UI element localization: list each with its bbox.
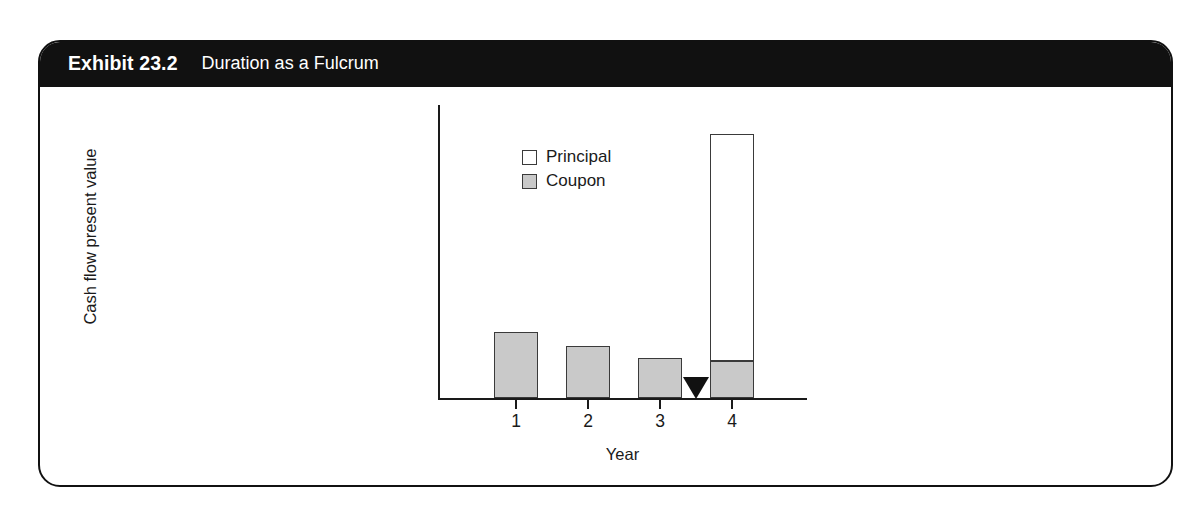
x-axis-tick <box>515 400 517 409</box>
x-axis-tick-label: 4 <box>712 411 752 432</box>
legend-swatch-principal-icon <box>522 150 537 165</box>
legend-label-principal: Principal <box>546 147 611 167</box>
bar-segment-coupon <box>638 358 682 398</box>
bar-segment-coupon <box>566 346 610 398</box>
chart-plot-area: Cash flow present value Year 1234 Princi… <box>40 87 1173 487</box>
x-axis-tick <box>731 400 733 409</box>
x-axis-tick-label: 1 <box>496 411 536 432</box>
bar-segment-coupon <box>710 361 754 398</box>
legend-item-principal: Principal <box>522 147 611 167</box>
legend-item-coupon: Coupon <box>522 171 611 191</box>
exhibit-number: Exhibit 23.2 <box>68 52 178 75</box>
x-axis-line <box>438 398 807 400</box>
bar-segment-principal <box>710 134 754 361</box>
legend-swatch-coupon-icon <box>522 174 537 189</box>
y-axis-line <box>438 105 440 400</box>
bar-segment-coupon <box>494 332 538 398</box>
bar-2 <box>566 346 610 398</box>
legend-label-coupon: Coupon <box>546 171 606 191</box>
exhibit-frame: Exhibit 23.2 Duration as a Fulcrum Cash … <box>38 40 1173 487</box>
x-axis-tick-label: 2 <box>568 411 608 432</box>
bar-4 <box>710 134 754 398</box>
exhibit-header: Exhibit 23.2 Duration as a Fulcrum <box>38 40 1173 87</box>
x-axis-tick-label: 3 <box>640 411 680 432</box>
chart-legend: Principal Coupon <box>522 147 611 195</box>
x-axis-tick <box>587 400 589 409</box>
bar-1 <box>494 332 538 398</box>
exhibit-title: Duration as a Fulcrum <box>202 53 379 74</box>
fulcrum-triangle-icon <box>683 377 709 399</box>
x-axis-tick <box>659 400 661 409</box>
bar-3 <box>638 358 682 398</box>
x-axis-label: Year <box>438 445 807 464</box>
y-axis-label: Cash flow present value <box>81 127 100 347</box>
